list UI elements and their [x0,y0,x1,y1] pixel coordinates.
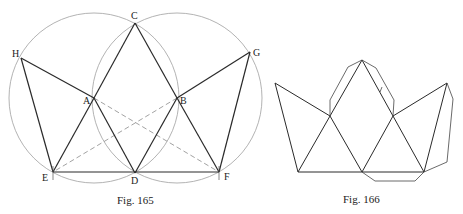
solid-edges [21,23,250,173]
point-label-h: H [12,48,19,59]
point-label-d: D [131,175,138,186]
point-label-f: F [224,171,230,182]
figure-caption-165: Fig. 165 [117,194,154,206]
point-label-b: B [180,95,187,106]
figure-caption-166: Fig. 166 [343,193,380,205]
point-label-c: C [131,10,138,21]
figure-166: Fig. 166 [275,60,453,205]
dashed-line-b-e [53,98,177,172]
diagram-canvas: C H A B G E D F Fig. 165 [0,0,463,214]
net-edges [275,60,447,172]
point-label-a: A [83,95,91,106]
point-label-g: G [253,47,260,58]
point-label-e: E [42,172,48,183]
glue-tabs [330,60,453,181]
figure-165: C H A B G E D F Fig. 165 [9,10,262,206]
